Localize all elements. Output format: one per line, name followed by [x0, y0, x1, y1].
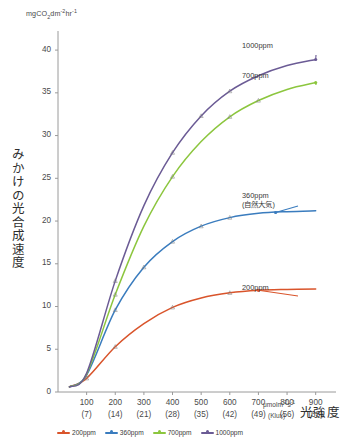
legend-color-swatch	[57, 432, 70, 434]
series-inline-label-200ppm: 200ppm	[242, 283, 269, 292]
legend-color-swatch	[201, 432, 214, 434]
legend-label: 360ppm	[120, 429, 144, 436]
series-1000ppm	[69, 60, 315, 387]
legend-item: 360ppm	[105, 429, 144, 436]
chart-legend: 200ppm 360ppm 700ppm 1000ppm	[57, 429, 243, 436]
series-inline-label-1000ppm: 1000ppm	[242, 41, 273, 50]
series-inline-label-360ppm: 360ppm(自然大気)	[242, 191, 275, 210]
legend-item: 700ppm	[153, 429, 192, 436]
series-inline-label-text: 200ppm	[242, 283, 269, 292]
series-700ppm	[69, 83, 315, 387]
y-tick-label: 10	[29, 301, 51, 310]
legend-color-swatch	[105, 432, 118, 434]
series-360ppm	[69, 211, 315, 387]
x-unit-sup2: -1	[291, 399, 295, 405]
series-inline-label-text: 1000ppm	[242, 41, 273, 50]
y-tick-label: 40	[29, 45, 51, 54]
legend-item: 1000ppm	[201, 429, 244, 436]
series-endpoint-marker	[274, 211, 277, 214]
series-inline-label-text: 360ppm	[242, 191, 275, 200]
x-axis-unit-secondary: (Klux)	[268, 412, 285, 419]
y-tick-label: 0	[29, 387, 51, 396]
series-inline-sublabel-text: (自然大気)	[242, 200, 275, 209]
x-unit-pre: μmolm	[263, 401, 283, 408]
legend-color-swatch	[153, 432, 166, 434]
x-axis-title: 光強度	[300, 402, 340, 421]
legend-item: 200ppm	[57, 429, 96, 436]
series-inline-label-700ppm: 700ppm	[242, 71, 269, 80]
series-endpoint-marker	[314, 58, 317, 61]
y-tick-label: 15	[29, 258, 51, 267]
photosynthesis-light-response-chart: mgCO2dm-2hr-1 みかけの光合成速度 0510152025303540…	[0, 0, 346, 445]
series-inline-label-text: 700ppm	[242, 71, 269, 80]
y-tick-label: 25	[29, 173, 51, 182]
y-tick-label: 5	[29, 344, 51, 353]
legend-label: 200ppm	[72, 429, 96, 436]
y-tick-label: 35	[29, 87, 51, 96]
x-axis-unit-primary: μmolm-2s-1	[263, 399, 295, 408]
legend-label: 700ppm	[168, 429, 192, 436]
series-endpoint-marker	[314, 81, 317, 84]
plot-area	[0, 0, 346, 445]
legend-label: 1000ppm	[216, 429, 244, 436]
series-200ppm	[69, 289, 315, 387]
y-tick-label: 30	[29, 130, 51, 139]
y-tick-label: 20	[29, 216, 51, 225]
